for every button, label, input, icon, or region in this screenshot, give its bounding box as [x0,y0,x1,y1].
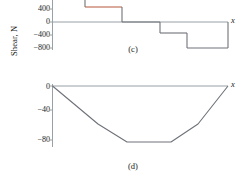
moment-x-axis-label: x [231,79,235,89]
moment-diagram-panel: Moment, N·m 0 −40 −80 x (d) [0,85,246,182]
shear-diagram-panel: Shear, N 800 400 0 −400 −800 [0,0,246,91]
shear-x-axis-label: x [231,15,235,25]
moment-panel-caption: (d) [118,161,148,171]
shear-panel-caption: (c) [118,44,148,54]
moment-curve [53,86,229,142]
figure-shear-moment-diagrams: Shear, N 800 400 0 −400 −800 [0,0,246,182]
